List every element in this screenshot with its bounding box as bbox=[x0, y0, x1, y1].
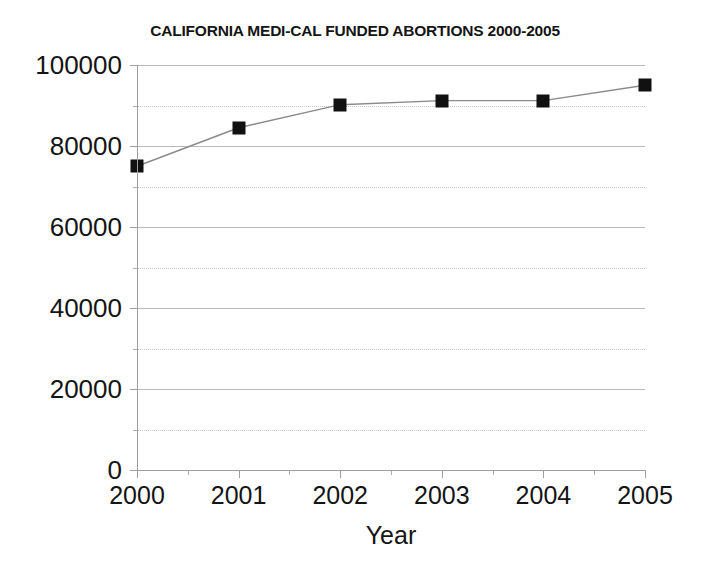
y-tick-0 bbox=[130, 470, 137, 471]
plot-area bbox=[137, 65, 645, 470]
y-tick-label-20000: 20000 bbox=[50, 376, 122, 402]
x-tick-label-2002: 2002 bbox=[312, 483, 368, 508]
x-tick-2003 bbox=[442, 470, 443, 478]
x-tick-label-2000: 2000 bbox=[109, 483, 165, 508]
data-point-2004 bbox=[537, 94, 550, 107]
y-tick-40000 bbox=[130, 308, 137, 309]
x-axis-line bbox=[137, 470, 646, 471]
x-tick-label-2004: 2004 bbox=[516, 483, 572, 508]
x-axis-tick-labels: 2000 2001 2002 2003 2004 2005 bbox=[0, 483, 710, 519]
x-tick-label-2001: 2001 bbox=[211, 483, 267, 508]
y-tick-60000 bbox=[130, 227, 137, 228]
x-tick-2002 bbox=[340, 470, 341, 478]
y-axis-line bbox=[137, 65, 138, 470]
data-point-2005 bbox=[639, 79, 652, 92]
x-tick-2000 bbox=[137, 470, 138, 478]
y-tick-label-60000: 60000 bbox=[50, 214, 122, 240]
y-tick-label-80000: 80000 bbox=[50, 133, 122, 159]
data-point-2003 bbox=[435, 94, 448, 107]
y-tick-label-0: 0 bbox=[108, 457, 122, 483]
y-tick-20000 bbox=[130, 389, 137, 390]
y-tick-100000 bbox=[130, 65, 137, 66]
chart-figure: CALIFORNIA MEDI-CAL FUNDED ABORTIONS 200… bbox=[0, 0, 710, 582]
x-tick-2004 bbox=[543, 470, 544, 478]
y-tick-label-100000: 100000 bbox=[35, 52, 122, 78]
x-tick-2005 bbox=[645, 470, 646, 478]
y-axis-tick-labels: 0 20000 40000 60000 80000 100000 bbox=[0, 65, 122, 470]
data-point-2002 bbox=[334, 98, 347, 111]
series-line bbox=[137, 65, 645, 470]
x-axis-title: Year bbox=[137, 521, 645, 550]
chart-title: CALIFORNIA MEDI-CAL FUNDED ABORTIONS 200… bbox=[0, 22, 710, 40]
data-point-2001 bbox=[232, 121, 245, 134]
x-tick-2001 bbox=[239, 470, 240, 478]
y-tick-80000 bbox=[130, 146, 137, 147]
x-tick-label-2005: 2005 bbox=[617, 483, 673, 508]
x-tick-label-2003: 2003 bbox=[414, 483, 470, 508]
y-tick-label-40000: 40000 bbox=[50, 295, 122, 321]
